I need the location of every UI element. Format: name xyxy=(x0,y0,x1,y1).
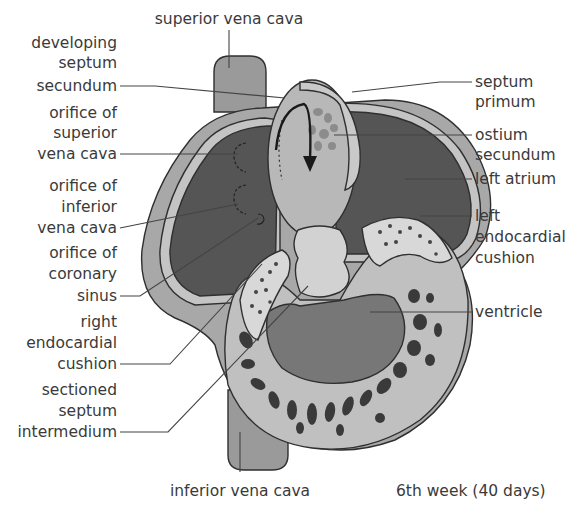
label-septum-p: septum xyxy=(475,73,533,91)
label-septum: septum xyxy=(59,54,117,72)
label-superior: superior xyxy=(53,124,117,142)
label-left: left xyxy=(475,207,500,225)
label-sinus: sinus xyxy=(77,287,117,305)
label-orifice-of-svc: orifice of xyxy=(49,104,117,122)
label-orifice-of-ivc: orifice of xyxy=(49,177,117,195)
label-secundum-o: secundum xyxy=(475,146,556,164)
label-secundum: secundum xyxy=(36,77,117,95)
label-vena-cava-svc: vena cava xyxy=(37,145,117,163)
label-endocardial-l: endocardial xyxy=(475,228,566,246)
label-endocardial-r: endocardial xyxy=(26,334,117,352)
label-inferior-vena-cava: inferior vena cava xyxy=(170,482,310,500)
label-primum: primum xyxy=(475,93,536,111)
central-cushion xyxy=(294,226,349,297)
label-coronary: coronary xyxy=(49,265,117,283)
label-cushion-l: cushion xyxy=(475,249,535,267)
label-cushion-r: cushion xyxy=(57,355,117,373)
label-right: right xyxy=(81,313,117,331)
label-vena-cava-ivc: vena cava xyxy=(37,219,117,237)
label-ostium: ostium xyxy=(475,126,528,144)
label-left-atrium: left atrium xyxy=(475,170,556,188)
figure-caption: 6th week (40 days) xyxy=(396,482,546,500)
heart-diagram: superior vena cava developing septum sec… xyxy=(0,0,573,513)
diagram-canvas: superior vena cava developing septum sec… xyxy=(0,0,573,513)
label-sectioned: sectioned xyxy=(42,381,117,399)
leader-septum-primum xyxy=(352,82,472,92)
label-intermedium: intermedium xyxy=(17,423,117,441)
left-labels: developing septum secundum orifice of su… xyxy=(17,34,117,441)
label-orifice-of-cs: orifice of xyxy=(49,244,117,262)
label-ventricle: ventricle xyxy=(475,303,543,321)
label-inferior: inferior xyxy=(61,198,117,216)
superior-vena-cava-vessel xyxy=(214,56,266,112)
label-superior-vena-cava: superior vena cava xyxy=(155,10,303,28)
label-developing: developing xyxy=(31,34,117,52)
label-septum-i: septum xyxy=(59,402,117,420)
